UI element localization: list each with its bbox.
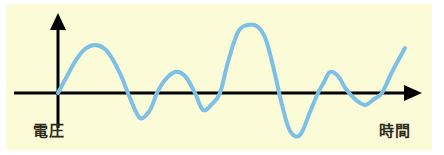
y-axis-label: 電圧	[33, 124, 64, 139]
right-arrow-icon	[404, 85, 422, 101]
up-arrow-icon	[50, 13, 66, 30]
waveform-chart	[0, 0, 444, 155]
waveform-figure: 電圧 時間	[0, 0, 444, 155]
waveform-trace	[58, 25, 405, 137]
x-axis-label: 時間	[379, 124, 410, 139]
